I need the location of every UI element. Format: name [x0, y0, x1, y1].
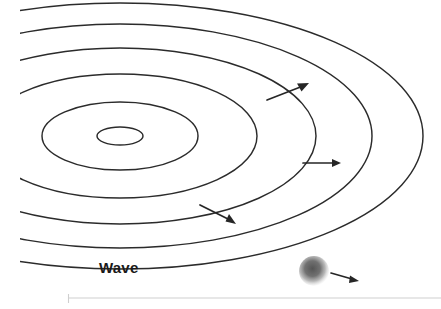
wave-label: Wave: [99, 259, 138, 277]
wave-rings-group: [0, 3, 423, 269]
upper-right-arrow: [267, 83, 309, 100]
wave-diagram-figure: Wave: [0, 0, 441, 309]
ball-motion-arrow: [331, 273, 359, 283]
wave-ring-2: [42, 102, 198, 170]
wave-ring-1: [97, 127, 143, 145]
wave-diagram-canvas: [0, 0, 441, 309]
wave-ring-6: [0, 3, 423, 269]
wave-ring-3: [0, 74, 257, 198]
wave-ring-4: [0, 48, 316, 224]
source-ball: [299, 256, 329, 286]
